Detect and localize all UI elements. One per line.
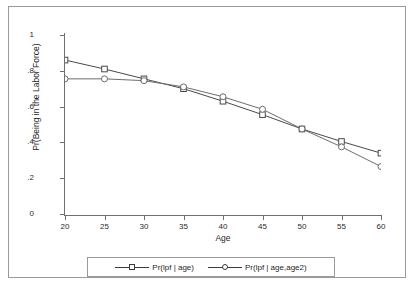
legend-entry-series-1: Pr(lpf | age) [115,263,194,272]
x-tick-mark [65,216,66,220]
series-line [65,60,381,153]
x-tick-mark [144,216,145,220]
y-axis-label: Pr(Being in the Labor Force) [31,7,41,187]
x-tick-label: 30 [131,222,157,231]
series-2 [65,76,381,170]
data-point-square [65,57,68,63]
data-point-circle [181,84,187,90]
x-tick-label: 55 [329,222,355,231]
legend-label-series-2: Pr(lpf | age,age2) [245,263,307,272]
legend-entry-series-2: Pr(lpf | age,age2) [208,263,307,272]
y-tick-label: 0 [30,210,34,218]
y-tick-mark [60,214,64,215]
x-axis-label: Age [65,233,381,243]
chart-figure: 0.2.4.6.81 202530354045505560 Pr(Being i… [0,0,416,284]
x-tick-label: 35 [171,222,197,231]
x-tick-label: 60 [368,222,394,231]
x-tick-mark [263,216,264,220]
graph-frame: 0.2.4.6.81 202530354045505560 Pr(Being i… [8,6,406,278]
x-tick-mark [381,216,382,220]
y-tick-mark [60,142,64,143]
y-tick-mark [60,71,64,72]
x-tick-label: 50 [289,222,315,231]
plot-area [65,35,381,214]
data-point-circle [260,106,266,112]
data-point-circle [339,144,345,150]
legend-marker-square-icon [115,263,149,272]
data-point-circle [65,76,68,82]
data-point-circle [141,78,147,84]
series-1 [65,57,381,156]
x-tick-label: 45 [250,222,276,231]
x-tick-label: 20 [52,222,78,231]
data-point-square [378,150,381,156]
x-tick-mark [184,216,185,220]
y-tick-mark [60,35,64,36]
chart-legend: Pr(lpf | age) Pr(lpf | age,age2) [87,257,335,277]
series-canvas [65,35,381,214]
data-point-square [102,66,108,72]
x-tick-label: 25 [92,222,118,231]
data-point-circle [220,94,226,100]
x-tick-mark [302,216,303,220]
legend-marker-circle-icon [208,263,242,272]
data-point-circle [378,164,381,170]
data-point-circle [299,126,305,132]
x-tick-mark [105,216,106,220]
legend-label-series-1: Pr(lpf | age) [152,263,194,272]
x-tick-mark [223,216,224,220]
x-tick-label: 40 [210,222,236,231]
series-line [65,79,381,167]
data-point-circle [102,76,108,82]
y-tick-mark [60,178,64,179]
y-tick-mark [60,107,64,108]
x-tick-mark [342,216,343,220]
